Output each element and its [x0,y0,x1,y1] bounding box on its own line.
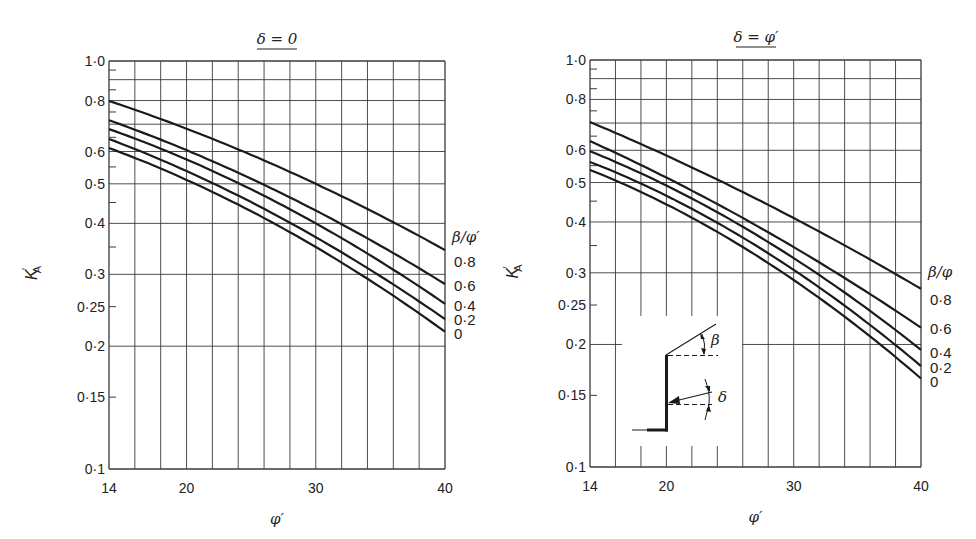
y-tick-label: 1·0 [85,53,105,69]
x-tick-label: 14 [101,480,117,496]
y-tick-label: 0·8 [566,91,586,107]
y-axis-label: K′A [20,265,43,280]
panel-title: δ = φ′ [733,28,779,46]
y-tick-label: 0·5 [85,176,105,192]
y-tick-label: 0·3 [566,265,586,281]
y-tick-label: 0·1 [566,459,586,475]
delta-label: δ [718,388,727,406]
x-tick-label: 30 [786,478,802,494]
x-tick-label: 40 [913,478,929,494]
beta-label: β [710,331,720,349]
y-tick-label: 0·15 [558,387,586,403]
legend-label: 0·6 [454,277,476,294]
backfill-slope [666,324,716,355]
retaining-wall-inset-diagram: βδ [632,324,727,432]
legend-label: 0·8 [454,253,476,270]
y-tick-label: 0·5 [566,175,586,191]
y-tick-label: 0·2 [85,338,105,354]
curve-beta-ratio-0-4 [590,151,921,350]
y-tick-label: 0·25 [77,299,105,315]
y-tick-label: 0·1 [85,461,105,477]
curve-beta-ratio-0 [590,170,921,379]
legend-title: β/φ′ [451,228,480,246]
x-tick-label: 20 [179,480,195,496]
y-tick-label: 0·6 [85,144,105,160]
chart-delta-phi: 1·00·80·60·50·40·30·250·20·150·114203040… [501,28,953,526]
panel-title: δ = 0 [257,30,298,48]
curve-beta-ratio-0 [109,148,445,332]
arrowhead-icon [706,405,711,412]
thrust-vector [675,392,712,401]
legend-title: β/φ [927,263,953,281]
y-tick-label: 0·4 [85,215,105,231]
y-tick-label: 1·0 [566,52,586,68]
arrowhead-icon [701,348,706,355]
chart-canvas: 1·00·80·60·50·40·30·250·20·150·114203040… [0,0,976,539]
arrowhead-icon [668,396,680,404]
y-tick-label: 0·6 [566,142,586,158]
y-tick-label: 0·2 [566,336,586,352]
y-tick-label: 0·8 [85,93,105,109]
curve-beta-ratio-0-8 [109,101,445,250]
y-axis-label: K′A [501,264,524,279]
curve-beta-ratio-0-8 [590,122,921,289]
legend-label: 0·6 [930,320,952,337]
y-tick-label: 0·15 [77,389,105,405]
x-tick-label: 20 [659,478,675,494]
x-tick-label: 14 [582,478,598,494]
y-tick-label: 0·3 [85,266,105,282]
legend-label: 0 [454,325,462,342]
x-axis-label: φ′ [749,508,764,526]
x-axis-label: φ′ [270,510,285,528]
figure: 1·00·80·60·50·40·30·250·20·150·114203040… [0,0,976,539]
chart-delta-zero: 1·00·80·60·50·40·30·250·20·150·114203040… [20,30,480,528]
legend-label: 0·8 [930,291,952,308]
x-tick-label: 40 [437,480,453,496]
x-tick-label: 30 [308,480,324,496]
arrowhead-icon [705,386,710,392]
y-tick-label: 0·4 [566,214,586,230]
y-tick-label: 0·25 [558,297,586,313]
legend-label: 0 [930,373,938,390]
